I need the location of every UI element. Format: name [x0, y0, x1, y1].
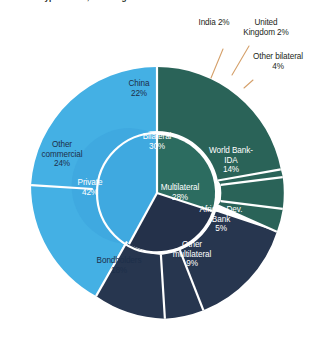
- leader-line-united-kingdom: [232, 46, 249, 75]
- leader-line-india: [211, 49, 223, 78]
- leader-line-other-bilateral: [244, 80, 253, 88]
- sunburst-svg: [0, 0, 314, 361]
- sunburst-chart: China 22% Bilateral 30% Private 42% Mult…: [0, 0, 314, 361]
- callout-leader-lines: [211, 46, 253, 88]
